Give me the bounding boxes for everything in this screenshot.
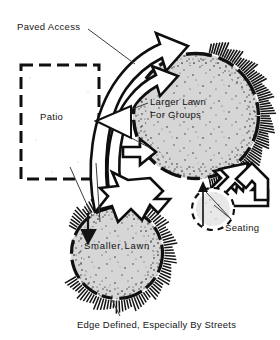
label-larger-lawn-line2: For Groups <box>150 108 206 121</box>
label-larger-lawn-line1: Larger Lawn <box>150 95 206 108</box>
label-caption: Edge Defined, Especially By Streets <box>77 319 236 331</box>
label-seating: Seating <box>225 222 259 234</box>
diagram-canvas <box>0 0 280 340</box>
label-paved-access: Paved Access <box>17 21 80 33</box>
label-larger-lawn: Larger Lawn For Groups <box>150 95 206 121</box>
landscape-diagram: Paved Access Patio Larger Lawn For Group… <box>0 0 280 340</box>
label-patio: Patio <box>40 111 63 123</box>
leader-paved-access <box>88 29 135 64</box>
label-smaller-lawn: Smaller Lawn <box>84 240 150 252</box>
